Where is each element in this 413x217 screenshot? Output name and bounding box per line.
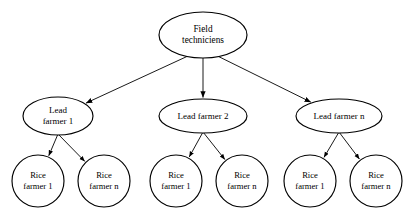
node-label-line2: farmer 1 — [23, 181, 52, 191]
node-rice-farmer-1-b[interactable]: Ricefarmer 1 — [150, 155, 202, 207]
node-label-line1: Rice — [234, 170, 250, 180]
node-label-line1: Rice — [302, 170, 318, 180]
node-field-techniciens[interactable]: Fieldtechniciens — [159, 12, 247, 58]
edge-leadn-rice1 — [324, 132, 339, 157]
node-label-line1: Rice — [30, 170, 46, 180]
diagram-canvas: FieldtechniciensLeadfarmer 1Lead farmer … — [0, 0, 413, 217]
node-label-line2: farmer n — [227, 181, 257, 191]
edge-lead1-rice1 — [49, 134, 58, 156]
edge-root-leadn — [218, 56, 311, 102]
node-lead-farmer-n[interactable]: Lead farmer n — [296, 99, 382, 133]
node-label-line2: farmer 1 — [161, 181, 190, 191]
node-rice-farmer-n-a[interactable]: Ricefarmer n — [78, 155, 130, 207]
node-label-line1: Field — [193, 24, 212, 34]
node-label-line2: farmer 1 — [295, 181, 324, 191]
node-label-line1: Lead — [49, 105, 67, 115]
hierarchy-diagram: FieldtechniciensLeadfarmer 1Lead farmer … — [0, 0, 413, 217]
node-label-line2: farmer n — [89, 181, 119, 191]
edge-lead1-ricen — [58, 134, 85, 161]
node-label-line1: Rice — [368, 170, 384, 180]
node-label-line2: farmer n — [361, 181, 391, 191]
edge-lead2-ricen — [203, 132, 225, 159]
node-label-line1: Rice — [96, 170, 112, 180]
edge-leadn-ricen — [339, 132, 359, 159]
node-rice-farmer-1-a[interactable]: Ricefarmer 1 — [12, 155, 64, 207]
node-label-line2: techniciens — [182, 35, 224, 45]
node-label-line1: Rice — [168, 170, 184, 180]
node-label-line1: Lead farmer n — [314, 111, 365, 121]
node-lead-farmer-2[interactable]: Lead farmer 2 — [159, 99, 247, 133]
node-rice-farmer-n-c[interactable]: Ricefarmer n — [350, 155, 402, 207]
node-lead-farmer-1[interactable]: Leadfarmer 1 — [23, 97, 93, 135]
edge-root-lead1 — [86, 56, 188, 103]
node-label-line1: Lead farmer 2 — [178, 111, 229, 121]
edge-lead2-rice1 — [189, 132, 203, 157]
node-rice-farmer-1-c[interactable]: Ricefarmer 1 — [284, 155, 336, 207]
node-label-line2: farmer 1 — [43, 116, 74, 126]
nodes-layer: FieldtechniciensLeadfarmer 1Lead farmer … — [12, 12, 402, 207]
node-rice-farmer-n-b[interactable]: Ricefarmer n — [216, 155, 268, 207]
